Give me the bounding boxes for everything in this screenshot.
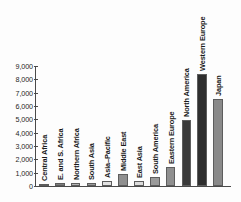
bar[interactable]	[71, 183, 81, 186]
y-axis-tick-label: 5,000	[16, 115, 34, 124]
bar-category-label: Central Africa	[39, 135, 48, 181]
bar[interactable]	[213, 99, 223, 186]
bar[interactable]	[134, 181, 144, 186]
bar-category-label: Northern Africa	[71, 128, 80, 180]
y-axis-tick-mark	[34, 173, 38, 174]
bar-item[interactable]: Eastern Europe	[166, 66, 176, 186]
bar-category-label: Asia–Pacific	[103, 136, 112, 178]
bar-category-label: Middle East	[119, 132, 128, 171]
bar-item[interactable]: South Asia	[87, 66, 97, 186]
y-axis-tick-mark	[34, 106, 38, 107]
bar-item[interactable]: Asia–Pacific	[102, 66, 112, 186]
y-axis-tick-mark	[34, 93, 38, 94]
bar-category-label: North America	[182, 68, 191, 117]
bar[interactable]	[182, 120, 192, 186]
bar[interactable]	[150, 177, 160, 186]
bar[interactable]	[102, 181, 112, 186]
bar-series: Central AfricaE. and S. AfricaNorthern A…	[36, 66, 226, 186]
y-axis-tick-label: 3,000	[16, 142, 34, 151]
x-axis-line	[35, 186, 231, 187]
bar[interactable]	[55, 183, 65, 186]
bar-item[interactable]: Western Europe	[197, 66, 207, 186]
bar-item[interactable]: South America	[150, 66, 160, 186]
bar-item[interactable]: East Asia	[134, 66, 144, 186]
y-axis-tick-label: 6,000	[16, 102, 34, 111]
y-axis-tick-mark	[34, 159, 38, 160]
y-axis-tick-label: 0	[29, 182, 33, 191]
y-axis-tick-label: 1,000	[16, 168, 34, 177]
y-axis-tick-label: 4,000	[16, 128, 34, 137]
y-axis-tick-mark	[34, 66, 38, 67]
bar-chart: 9,0008,0007,0006,0005,0004,0003,0002,000…	[0, 0, 241, 202]
bar-item[interactable]: Northern Africa	[71, 66, 81, 186]
y-axis-tick-labels: 9,0008,0007,0006,0005,0004,0003,0002,000…	[0, 66, 33, 186]
bar[interactable]	[197, 74, 207, 186]
bar-category-label: Japan	[214, 76, 223, 97]
bar[interactable]	[39, 184, 49, 186]
bar-category-label: South America	[150, 124, 159, 174]
bar-category-label: Eastern Europe	[166, 112, 175, 165]
bar-item[interactable]: Middle East	[118, 66, 128, 186]
y-axis-tick-label: 2,000	[16, 155, 34, 164]
bar-item[interactable]: North America	[182, 66, 192, 186]
y-axis-tick-label: 9,000	[16, 62, 34, 71]
bar-category-label: Western Europe	[198, 17, 207, 71]
bar-category-label: E. and S. Africa	[55, 129, 64, 181]
bar-item[interactable]: Japan	[213, 66, 223, 186]
y-axis-tick-mark	[34, 79, 38, 80]
y-axis-tick-mark	[34, 186, 38, 187]
y-axis-tick-label: 8,000	[16, 75, 34, 84]
bar-item[interactable]: E. and S. Africa	[55, 66, 65, 186]
bar[interactable]	[166, 167, 176, 186]
bar-category-label: South Asia	[87, 144, 96, 181]
y-axis-tick-label: 7,000	[16, 88, 34, 97]
bar[interactable]	[118, 174, 128, 186]
y-axis-tick-mark	[34, 119, 38, 120]
y-axis-tick-mark	[34, 133, 38, 134]
bar-item[interactable]: Central Africa	[39, 66, 49, 186]
y-axis-tick-mark	[34, 146, 38, 147]
bar[interactable]	[87, 183, 97, 186]
bar-category-label: East Asia	[134, 146, 143, 178]
